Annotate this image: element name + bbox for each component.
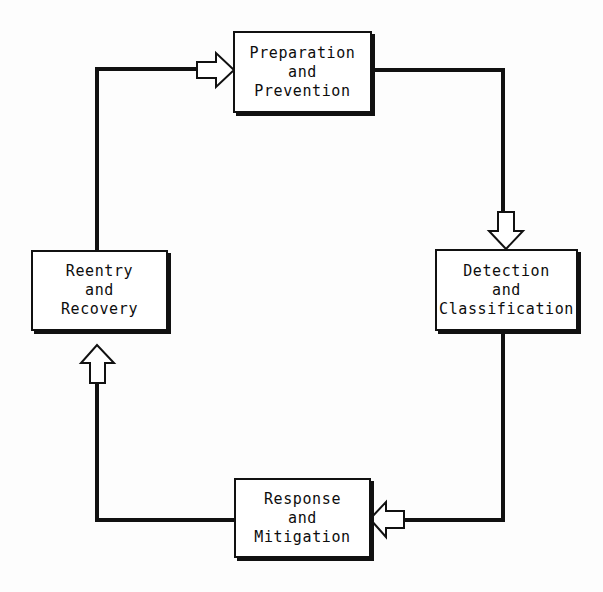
connector-detection-to-response xyxy=(404,331,503,520)
node-reentry-label: Reentry and Recovery xyxy=(57,262,142,319)
connector-preparation-to-detection xyxy=(372,70,503,212)
arrow-into-reentry-icon xyxy=(81,345,114,383)
diagram-canvas: Preparation and Prevention Detection and… xyxy=(0,0,603,592)
node-reentry[interactable]: Reentry and Recovery xyxy=(31,250,168,331)
arrow-into-preparation-icon xyxy=(197,53,234,87)
connector-response-to-reentry xyxy=(97,383,234,520)
node-detection-label: Detection and Classification xyxy=(435,262,578,319)
arrow-into-detection-icon xyxy=(489,212,523,249)
arrow-into-response-icon xyxy=(370,502,404,537)
node-response[interactable]: Response and Mitigation xyxy=(234,478,371,558)
node-preparation-label: Preparation and Prevention xyxy=(246,44,360,101)
node-detection[interactable]: Detection and Classification xyxy=(435,249,578,331)
node-response-label: Response and Mitigation xyxy=(250,490,354,547)
node-preparation[interactable]: Preparation and Prevention xyxy=(233,31,372,113)
